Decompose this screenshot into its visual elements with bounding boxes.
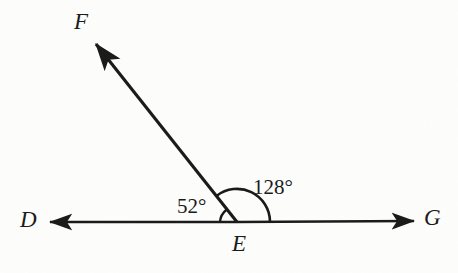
point-label-e: E xyxy=(232,232,246,255)
point-label-f: F xyxy=(74,10,88,33)
angle-arc-52 xyxy=(220,210,227,222)
point-label-d: D xyxy=(20,208,37,231)
point-label-g: G xyxy=(424,206,441,229)
angle-measure-128: 128° xyxy=(253,177,293,198)
geometry-figure: F D G E 52° 128° xyxy=(0,0,458,273)
geometry-canvas xyxy=(0,0,458,273)
ray-ef xyxy=(96,44,237,222)
ray-eg xyxy=(237,221,414,222)
angle-measure-52: 52° xyxy=(177,196,206,217)
